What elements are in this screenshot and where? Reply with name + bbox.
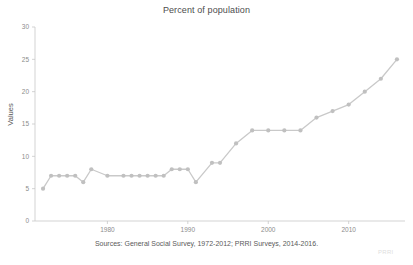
data-point-marker	[146, 174, 150, 178]
y-tick-label: 15	[22, 120, 30, 127]
data-point-marker	[170, 167, 174, 171]
prri-watermark: PRRI	[378, 249, 394, 255]
chart-container: Percent of population Values 05101520253…	[0, 0, 413, 265]
data-point-marker	[162, 174, 166, 178]
y-tick-label: 10	[22, 153, 30, 160]
x-axis-ticks: 1980199020002010	[100, 221, 356, 233]
data-point-marker	[194, 180, 198, 184]
data-point-marker	[129, 174, 133, 178]
data-point-marker	[105, 174, 109, 178]
data-point-marker	[73, 174, 77, 178]
data-point-marker	[210, 161, 214, 165]
y-tick-label: 0	[25, 217, 29, 224]
x-tick-label: 2010	[341, 226, 356, 233]
data-point-marker	[178, 167, 182, 171]
data-point-marker	[89, 167, 93, 171]
data-point-marker	[314, 115, 318, 119]
data-point-marker	[395, 57, 399, 61]
data-point-marker	[266, 128, 270, 132]
data-point-marker	[121, 174, 125, 178]
x-tick-label: 2000	[261, 226, 276, 233]
data-point-marker	[363, 90, 367, 94]
x-tick-label: 1990	[181, 226, 196, 233]
y-tick-label: 30	[22, 23, 30, 30]
data-point-marker	[41, 187, 45, 191]
x-tick-label: 1980	[100, 226, 115, 233]
data-point-marker	[331, 109, 335, 113]
y-tick-label: 25	[22, 56, 30, 63]
source-note: Sources: General Social Survey, 1972-201…	[0, 240, 413, 247]
data-point-marker	[347, 103, 351, 107]
data-point-marker	[65, 174, 69, 178]
data-point-marker	[298, 128, 302, 132]
data-point-marker	[234, 141, 238, 145]
data-point-marker	[186, 167, 190, 171]
data-point-marker	[154, 174, 158, 178]
data-point-marker	[137, 174, 141, 178]
y-tick-label: 5	[25, 185, 29, 192]
data-point-marker	[57, 174, 61, 178]
y-axis-ticks: 051015202530	[22, 23, 35, 224]
y-tick-label: 20	[22, 88, 30, 95]
data-point-marker	[250, 128, 254, 132]
data-point-marker	[282, 128, 286, 132]
data-point-marker	[49, 174, 53, 178]
series-line-percent-of-population	[43, 59, 397, 188]
plot-area: 051015202530 1980199020002010	[0, 0, 413, 265]
data-point-marker	[81, 180, 85, 184]
data-point-marker	[218, 161, 222, 165]
data-point-marker	[379, 77, 383, 81]
